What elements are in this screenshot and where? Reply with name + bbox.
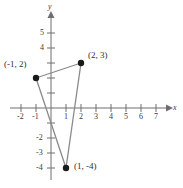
data-point-marker [78, 60, 84, 66]
x-tick-label: 3 [94, 113, 98, 121]
y-tick-label: -4 [36, 164, 43, 172]
x-tick-label: -2 [17, 113, 24, 121]
x-tick-label: 5 [124, 113, 128, 121]
y-tick-label: 4 [40, 44, 44, 52]
y-axis-label: y [48, 3, 52, 11]
coordinate-plane-figure: x y -2 -1 1 2 3 4 5 6 7 5 4 -2 -3 -4 (-1… [0, 0, 183, 188]
x-tick-label: 6 [139, 113, 143, 121]
x-tick-label: -1 [32, 113, 39, 121]
x-tick-label: 2 [79, 113, 83, 121]
y-tick-label: -3 [36, 149, 43, 157]
point-label-a: (-1, 2) [4, 60, 27, 69]
x-tick-label: 1 [64, 113, 68, 121]
x-tick-label: 4 [109, 113, 113, 121]
y-tick-label: -2 [36, 134, 43, 142]
point-label-b: (2, 3) [88, 51, 108, 60]
data-point-marker [33, 75, 39, 81]
triangle-polygon [36, 63, 81, 168]
x-tick-label: 7 [154, 113, 158, 121]
y-axis-arrow-icon [48, 11, 55, 18]
x-axis-arrow-icon [166, 105, 173, 112]
x-axis-label: x [173, 104, 177, 112]
point-label-c: (1, -4) [74, 162, 97, 171]
plot-canvas [0, 0, 183, 188]
data-point-marker [63, 165, 69, 171]
y-tick-label: 5 [40, 29, 44, 37]
